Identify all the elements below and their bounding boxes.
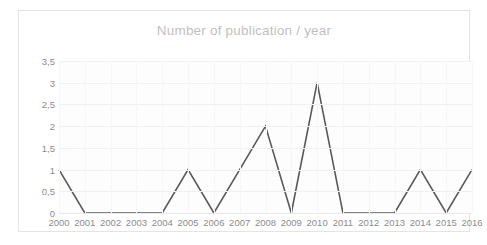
gridline-vertical bbox=[136, 61, 137, 213]
gridline-vertical bbox=[162, 61, 163, 213]
gridline-vertical bbox=[85, 61, 86, 213]
gridline-vertical bbox=[188, 61, 189, 213]
y-axis-tick-label: 0,5 bbox=[29, 186, 55, 197]
y-axis-tick-label: 1 bbox=[29, 164, 55, 175]
chart-title: Number of publication / year bbox=[19, 23, 469, 38]
gridline-vertical bbox=[446, 61, 447, 213]
gridline-vertical bbox=[59, 61, 60, 213]
y-axis-tick-label: 2 bbox=[29, 121, 55, 132]
gridline-vertical bbox=[214, 61, 215, 213]
gridline-vertical bbox=[472, 61, 473, 213]
y-axis: 00,511,522,533,5 bbox=[27, 61, 55, 213]
gridline-vertical bbox=[317, 61, 318, 213]
plot-area bbox=[59, 61, 472, 213]
gridline-vertical bbox=[266, 61, 267, 213]
y-axis-tick-label: 2,5 bbox=[29, 99, 55, 110]
gridline-vertical bbox=[369, 61, 370, 213]
gridline-vertical bbox=[111, 61, 112, 213]
gridline-vertical bbox=[395, 61, 396, 213]
y-axis-tick-label: 3,5 bbox=[29, 56, 55, 67]
x-axis-tick-label: 2016 bbox=[455, 217, 487, 228]
gridline-vertical bbox=[343, 61, 344, 213]
gridline-vertical bbox=[240, 61, 241, 213]
gridline-vertical bbox=[420, 61, 421, 213]
y-axis-tick-label: 3 bbox=[29, 77, 55, 88]
gridline-vertical bbox=[291, 61, 292, 213]
y-axis-tick-label: 1,5 bbox=[29, 142, 55, 153]
chart-container: Number of publication / year 00,511,522,… bbox=[18, 10, 470, 232]
gridline bbox=[59, 213, 472, 214]
x-axis: 2000200120022003200420052006200720082009… bbox=[59, 217, 472, 235]
